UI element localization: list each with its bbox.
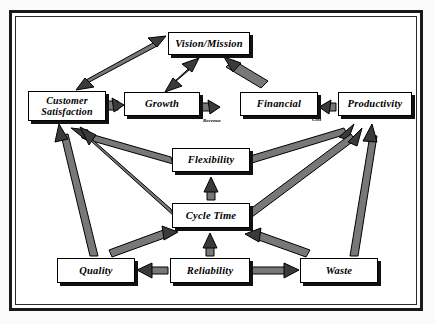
edge-waste-cycletime <box>245 228 310 257</box>
node-growth[interactable]: Growth <box>124 92 200 116</box>
node-waste[interactable]: Waste <box>300 258 378 283</box>
edge-growth-vision <box>165 58 199 92</box>
edge-cycletime-flexibility <box>204 177 218 200</box>
edge-reliability-waste <box>252 263 299 278</box>
diagram-canvas: .shaft{stroke:#000000;stroke-width:1;fil… <box>0 0 435 324</box>
node-label: Growth <box>145 98 179 110</box>
node-label: Cycle Time <box>186 210 236 222</box>
node-flexibility[interactable]: Flexibility <box>172 148 250 172</box>
node-label: Financial <box>257 98 301 110</box>
node-label: Waste <box>326 265 352 277</box>
node-vision-mission[interactable]: Vision/Mission <box>168 32 250 55</box>
edge-growth-financial <box>201 100 220 114</box>
node-financial[interactable]: Financial <box>240 92 318 116</box>
node-productivity[interactable]: Productivity <box>338 92 412 116</box>
edge-customer-vision <box>76 36 166 90</box>
node-label: Reliability <box>187 265 234 277</box>
node-label: Vision/Mission <box>175 38 243 50</box>
node-quality[interactable]: Quality <box>57 258 135 283</box>
node-label-line2: Satisfaction <box>41 106 92 117</box>
edge-reliability-quality <box>137 263 168 278</box>
edge-label-cost: Cost <box>312 117 321 122</box>
node-cycle-time[interactable]: Cycle Time <box>172 203 250 228</box>
edge-customer-growth <box>107 98 124 112</box>
edge-financial-vision <box>224 57 268 88</box>
edge-quality-customer <box>55 124 98 256</box>
node-label: Quality <box>79 265 113 277</box>
edge-productivity-financial <box>319 100 336 114</box>
node-customer-satisfaction[interactable]: Customer Satisfaction <box>28 91 106 121</box>
node-label: Productivity <box>348 98 403 110</box>
node-reliability[interactable]: Reliability <box>170 258 250 283</box>
node-label-line1: Customer <box>41 95 92 106</box>
node-label: Flexibility <box>188 154 235 166</box>
edge-quality-cycletime <box>109 226 178 257</box>
edge-reliability-cycletime <box>203 233 217 256</box>
edge-label-revenue: Revenue <box>203 118 221 123</box>
